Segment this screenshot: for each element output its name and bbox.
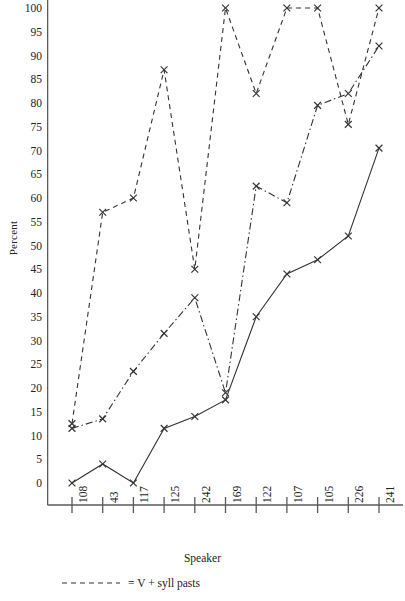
y-tick-label: 50 [14,240,42,252]
y-tick-label: 30 [14,335,42,347]
x-tick-label: 107 [292,463,304,503]
y-tick-label: 25 [14,358,42,370]
y-tick-label: 90 [14,50,42,62]
x-tick-label: 122 [261,463,273,503]
x-axis-title: Speaker [0,552,405,564]
x-tick-label: 43 [108,463,120,503]
y-tick-label: 40 [14,287,42,299]
y-tick-label: 60 [14,192,42,204]
y-tick-label: 5 [14,453,42,465]
y-tick-label: 100 [14,2,42,14]
series-1 [69,43,383,432]
y-tick-label: 45 [14,263,42,275]
x-tick-label: 241 [384,463,396,503]
x-tick-label: 226 [353,463,365,503]
y-tick-label: 15 [14,406,42,418]
y-tick-label: 55 [14,216,42,228]
chart-figure: Percent 05101520253035404550556065707580… [0,0,405,601]
x-tick-label: 242 [200,463,212,503]
y-tick-label: 10 [14,430,42,442]
x-tick-label: 169 [231,463,243,503]
series-2 [69,145,383,487]
y-tick-label: 20 [14,382,42,394]
y-tick-label: 70 [14,145,42,157]
y-tick-label: 35 [14,311,42,323]
x-tick-label: 125 [169,463,181,503]
y-tick-label: 0 [14,477,42,489]
y-tick-label: 75 [14,121,42,133]
y-tick-label: 95 [14,26,42,38]
y-axis-tick-labels: 0510152025303540455055606570758085909510… [10,0,42,601]
legend-item: = V + syll pasts [62,575,405,591]
y-tick-label: 85 [14,73,42,85]
series-0 [69,5,383,427]
legend-line-swatch [62,578,122,588]
chart-canvas [47,0,405,601]
x-tick-label: 108 [77,463,89,503]
plot-area [47,0,405,601]
legend-label: = V + syll pasts [122,577,200,589]
x-tick-label: 105 [323,463,335,503]
y-tick-label: 65 [14,168,42,180]
x-tick-label: 117 [138,463,150,503]
chart-legend: = V + syll pasts [62,575,405,591]
y-tick-label: 80 [14,97,42,109]
